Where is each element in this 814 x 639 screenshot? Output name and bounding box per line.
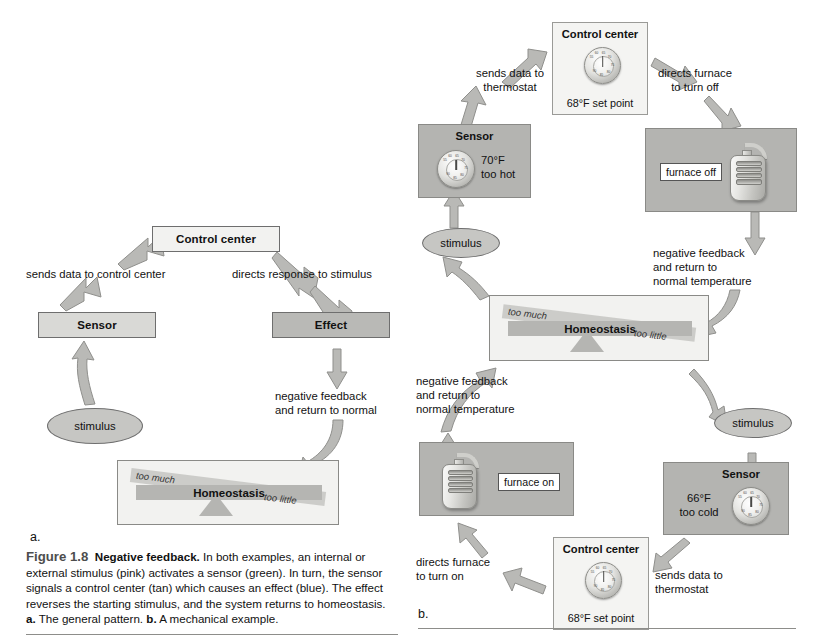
furnace-body-icon bbox=[442, 464, 477, 509]
panel-b-cc-bottom-title: Control center bbox=[554, 543, 648, 555]
panel-b-sends-data-top-label: sends data to thermostat bbox=[455, 66, 565, 94]
panel-a-stimulus-oval[interactable]: stimulus bbox=[47, 408, 143, 444]
figure-number: Figure 1.8 bbox=[26, 549, 88, 564]
panel-a-stimulus-label: stimulus bbox=[74, 420, 115, 432]
dial-tick-marks: 5560 6570 7580 8590 bbox=[751, 506, 752, 507]
panel-b-sensor-top-reading: 70°F too hot bbox=[481, 153, 515, 181]
sensor-top-temp: 70°F bbox=[481, 153, 515, 167]
figure-b-marker: b. bbox=[146, 612, 156, 625]
panel-b-stimulus-left[interactable]: stimulus bbox=[422, 228, 500, 258]
panel-b-cc-bottom-setpoint: 68°F set point bbox=[554, 612, 648, 624]
furnace-icon bbox=[730, 143, 764, 201]
thermostat-dial-icon[interactable]: 5560 6570 7580 8590 bbox=[584, 47, 621, 84]
panel-a-sensor-label: Sensor bbox=[77, 319, 117, 331]
arrow-effect-down bbox=[327, 349, 347, 389]
figure-caption: Figure 1.8 Negative feedback. In both ex… bbox=[26, 549, 398, 627]
sensor-bottom-state: too cold bbox=[674, 505, 724, 519]
panel-a-control-center-box[interactable]: Control center bbox=[152, 226, 280, 252]
panel-b-control-center-top[interactable]: Control center 5560 6570 7580 8590 68°F … bbox=[552, 22, 648, 115]
figure-b-desc: A mechanical example. bbox=[157, 612, 279, 625]
figure-a-marker: a. bbox=[26, 612, 36, 625]
panel-b-directs-on-label: directs furnace to turn on bbox=[416, 555, 536, 583]
panel-b-sensor-top-title: Sensor bbox=[419, 130, 530, 142]
panel-b-control-center-bottom[interactable]: Control center 5560 6570 7580 8590 68°F … bbox=[553, 537, 649, 630]
bottom-rule-right bbox=[418, 628, 796, 629]
dial-tick-marks: 5560 6570 7580 8590 bbox=[603, 66, 604, 67]
panel-b-sends-data-bottom-label: sends data to thermostat bbox=[655, 568, 775, 596]
panel-b-homeostasis[interactable]: Homeostasis too much too little bbox=[489, 295, 709, 361]
thermostat-dial-icon[interactable]: 5560 6570 7580 8590 bbox=[437, 150, 475, 188]
furnace-body-icon bbox=[730, 155, 766, 201]
sensor-bottom-temp: 66°F bbox=[674, 491, 724, 505]
furnace-icon bbox=[442, 453, 475, 509]
figure-a-desc: The general pattern. bbox=[36, 612, 147, 625]
dial-tick-marks: 5560 6570 7580 8590 bbox=[456, 169, 457, 170]
panel-a-effect-box[interactable]: Effect bbox=[272, 312, 390, 338]
arrow-b-homeostasis-to-stimulus-l bbox=[443, 257, 489, 300]
panel-b-stimulus-right[interactable]: stimulus bbox=[714, 408, 792, 438]
panel-b-stimulus-left-label: stimulus bbox=[440, 237, 481, 249]
panel-b-directs-off-label: directs furnace to turn off bbox=[640, 66, 750, 94]
panel-b-sensor-bottom-reading: 66°F too cold bbox=[674, 491, 724, 519]
panel-a-directs-response-label: directs response to stimulus bbox=[232, 267, 432, 281]
thermostat-dial-icon[interactable]: 5560 6570 7580 8590 bbox=[732, 487, 770, 525]
arrow-b-sensor-b-to-label bbox=[653, 538, 690, 572]
panel-b-feedback-right-label: negative feedback and return to normal t… bbox=[653, 246, 793, 288]
arrow-sensor-up bbox=[60, 277, 101, 311]
panel-a-sends-data-text: sends data to control center bbox=[26, 268, 165, 280]
sensor-top-state: too hot bbox=[481, 167, 515, 181]
panel-a-control-center-label: Control center bbox=[176, 233, 256, 245]
panel-a-sensor-box[interactable]: Sensor bbox=[38, 312, 156, 338]
furnace-off-note: furnace off bbox=[660, 163, 722, 181]
panel-b-stimulus-right-label: stimulus bbox=[732, 417, 773, 429]
panel-a-letter: a. bbox=[30, 530, 40, 544]
furnace-on-note: furnace on bbox=[498, 473, 560, 491]
panel-b-sensor-top[interactable]: Sensor 5560 6570 7580 8590 70°F too hot bbox=[418, 124, 531, 198]
panel-b-sensor-bottom-title: Sensor bbox=[682, 468, 814, 480]
panel-a-homeostasis-label: Homeostasis bbox=[193, 487, 265, 499]
panel-b-sensor-bottom[interactable]: Sensor 5560 6570 7580 8590 66°F too cold bbox=[663, 462, 789, 535]
arrow-stimulus-to-sensor bbox=[72, 341, 95, 405]
panel-b-homeostasis-label: Homeostasis bbox=[564, 323, 636, 335]
panel-a-directs-response-text: directs response to stimulus bbox=[232, 268, 372, 280]
thermostat-dial-icon[interactable]: 5560 6570 7580 8590 bbox=[585, 562, 622, 599]
panel-a-homeostasis[interactable]: Homeostasis too much too little bbox=[117, 460, 339, 525]
panel-b-furnace-off-box[interactable]: furnace off bbox=[645, 128, 797, 212]
panel-b-cc-top-setpoint: 68°F set point bbox=[553, 97, 647, 109]
bottom-rule-left bbox=[26, 634, 398, 635]
panel-b-furnace-on-box[interactable]: furnace on bbox=[419, 442, 574, 516]
arrow-b-label-to-furnace-off bbox=[704, 96, 741, 131]
panel-b-feedback-left-label: negative feedback and return to normal t… bbox=[416, 374, 556, 416]
dial-tick-marks: 5560 6570 7580 8590 bbox=[604, 581, 605, 582]
panel-b-cc-top-title: Control center bbox=[553, 28, 647, 40]
arrow-b-label-to-furnace-on bbox=[458, 523, 488, 558]
panel-b-letter: b. bbox=[418, 607, 428, 621]
figure-title: Negative feedback. bbox=[95, 550, 200, 563]
panel-a-sends-data-label: sends data to control center bbox=[26, 267, 226, 281]
panel-a-effect-label: Effect bbox=[315, 319, 348, 331]
